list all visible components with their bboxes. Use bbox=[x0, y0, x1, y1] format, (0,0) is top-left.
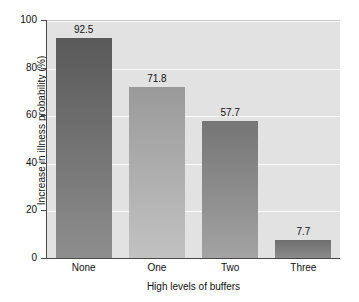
y-tick-mark bbox=[41, 163, 47, 164]
bar-value-label: 57.7 bbox=[188, 108, 272, 118]
y-tick-mark bbox=[41, 68, 47, 69]
bar-value-label: 92.5 bbox=[42, 25, 126, 35]
bar-three bbox=[275, 240, 331, 258]
y-tick-mark bbox=[41, 20, 47, 21]
x-tick-label-two: Two bbox=[190, 263, 270, 273]
bar-none bbox=[56, 38, 112, 258]
y-tick-label: 40 bbox=[0, 158, 37, 168]
bar-chart-figure: Increase in illness probability (%) High… bbox=[0, 0, 359, 302]
x-axis-title: High levels of buffers bbox=[47, 281, 340, 292]
y-axis-line bbox=[46, 20, 47, 259]
x-tick-label-three: Three bbox=[263, 263, 343, 273]
y-tick-label: 0 bbox=[0, 253, 37, 263]
gridline bbox=[47, 21, 340, 22]
bar-value-label: 7.7 bbox=[261, 227, 345, 237]
x-axis-line bbox=[46, 258, 340, 259]
plot-area bbox=[47, 20, 340, 258]
y-tick-label: 100 bbox=[0, 15, 37, 25]
bar-value-label: 71.8 bbox=[115, 74, 199, 84]
y-tick-mark bbox=[41, 210, 47, 211]
y-tick-label: 80 bbox=[0, 63, 37, 73]
y-tick-label: 60 bbox=[0, 110, 37, 120]
bar-one bbox=[129, 87, 185, 258]
y-tick-label: 20 bbox=[0, 205, 37, 215]
y-tick-mark bbox=[41, 258, 47, 259]
x-tick-label-none: None bbox=[44, 263, 124, 273]
y-axis-title: Increase in illness probability (%) bbox=[36, 11, 47, 251]
x-tick-label-one: One bbox=[117, 263, 197, 273]
y-tick-mark bbox=[41, 115, 47, 116]
bar-two bbox=[202, 121, 258, 258]
